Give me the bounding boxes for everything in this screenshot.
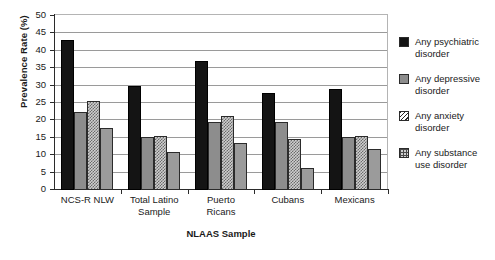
legend-swatch-icon [399,37,409,47]
y-axis-tick-label: 15 [0,131,54,142]
y-axis-tick-label: 20 [0,113,54,124]
y-axis-tick-label: 40 [0,44,54,55]
legend-swatch-icon [399,74,409,84]
legend-label: Any psychiatric disorder [415,36,495,59]
bar [87,101,100,190]
x-axis-label: Mexicans [315,194,394,206]
y-axis-tick-label: 45 [0,26,54,37]
bar [167,152,180,190]
y-axis-tick-label: 25 [0,96,54,107]
x-axis-label-line: Mexicans [315,194,394,206]
legend-label: Any substance use disorder [415,147,495,170]
bar [195,61,208,190]
bar [61,40,74,190]
bar [288,139,301,190]
legend-item: Any depressive disorder [399,73,495,97]
x-axis-label-line: Ricans [182,206,261,218]
bar [234,143,247,190]
bar [342,137,355,190]
legend-label: Any depressive disorder [415,73,495,96]
bar [329,89,342,190]
legend-label: Any anxiety disorder [415,110,495,133]
bar [100,128,113,190]
y-axis-tick-label: 30 [0,79,54,90]
y-axis-tick-label: 5 [0,166,54,177]
y-axis-tick-label: 10 [0,148,54,159]
bar [262,93,275,190]
bar [74,112,87,190]
bar-group [329,15,381,190]
legend-swatch-icon [399,148,409,158]
bar [275,122,288,190]
bar-group [195,15,247,190]
bar-group [262,15,314,190]
legend-item: Any anxiety disorder [399,110,495,134]
legend-item: Any psychiatric disorder [399,36,495,60]
bar-group [61,15,113,190]
bar-series-area [55,15,387,190]
y-axis-tick-label: 35 [0,61,54,72]
bar [301,168,314,190]
bar [355,136,368,190]
y-axis-tick-label: 0 [0,183,54,194]
bar-group [128,15,180,190]
bar [208,122,221,190]
bar [141,137,154,190]
y-axis-tick-label: 50 [0,9,54,20]
legend-swatch-icon [399,111,409,121]
legend-item: Any substance use disorder [399,147,495,171]
bar [128,86,141,190]
bar [154,136,167,190]
legend: Any psychiatric disorderAny depressive d… [399,36,495,184]
bar [221,116,234,190]
x-axis-title: NLAAS Sample [54,228,388,239]
chart-container: Prevalence Rate (%) 50454035302520151050… [0,0,495,260]
bar [368,149,381,190]
